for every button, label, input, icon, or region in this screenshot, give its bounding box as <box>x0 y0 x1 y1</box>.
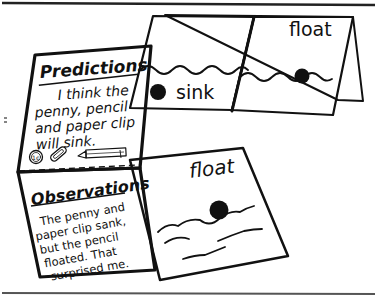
front-page: Predictions I think the penny, pencil an… <box>18 46 155 285</box>
bottom-rule <box>2 293 375 294</box>
sinking-ball-icon <box>150 84 166 100</box>
float-label-bottom: float <box>188 153 237 182</box>
predictions-section: Predictions I think the penny, pencil an… <box>30 55 153 153</box>
svg-text:1¢: 1¢ <box>32 154 40 161</box>
pencil-icon <box>78 148 126 158</box>
floating-ball-icon <box>295 69 310 84</box>
top-rule <box>2 3 375 5</box>
observations-section: Observations The penny and paper clip sa… <box>30 174 151 285</box>
floating-ball-icon-bottom <box>210 201 229 220</box>
journal-illustration: sink float float Predictions I think the… <box>0 0 380 297</box>
float-label-top: float <box>289 18 332 40</box>
penny-icon: 1¢ <box>30 151 43 164</box>
margin-mark <box>4 118 7 122</box>
sink-label: sink <box>176 81 214 103</box>
back-card: sink float <box>130 15 363 115</box>
predictions-heading: Predictions <box>39 55 148 82</box>
